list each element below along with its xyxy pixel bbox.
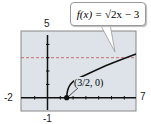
point-label: (3/2, 0) (74, 77, 103, 88)
function-expression: √2x − 3 (105, 8, 139, 20)
y-min-label: -1 (43, 114, 52, 124)
point-marker (64, 95, 69, 100)
plot-frame (21, 31, 136, 111)
y-max-label: 5 (44, 19, 50, 29)
function-name: f(x) = (77, 8, 102, 20)
x-max-label: 7 (140, 92, 146, 102)
function-callout: f(x) = √2x − 3 (70, 2, 146, 26)
x-min-label: -2 (4, 93, 13, 103)
